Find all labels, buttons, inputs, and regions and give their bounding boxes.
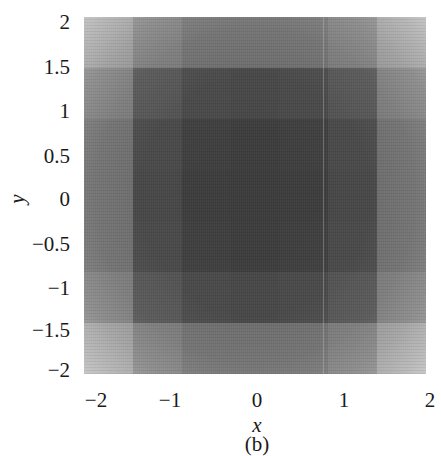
x-tick-label: 2 — [425, 390, 436, 411]
x-tick-label: 1 — [339, 390, 350, 411]
y-tick-label: 2 — [60, 12, 71, 33]
y-tick-label: −1.5 — [32, 320, 70, 341]
x-tick-label: −1 — [159, 390, 181, 411]
x-tick-label: −2 — [85, 390, 107, 411]
y-tick-label: −1 — [48, 278, 70, 299]
annotation-vertical-line — [323, 17, 324, 374]
y-tick-label: −0.5 — [32, 234, 70, 255]
y-tick-label: 1.5 — [44, 57, 70, 78]
y-tick-label: −2 — [48, 360, 70, 381]
y-tick-label: 0.5 — [44, 146, 70, 167]
y-tick-label: 1 — [60, 101, 71, 122]
x-tick-label: 0 — [252, 390, 263, 411]
y-tick-label: 0 — [60, 189, 71, 210]
heatmap-figure: 2 1.5 1 0.5 0 −0.5 −1 −1.5 −2 −2 −1 0 1 … — [0, 0, 441, 456]
figure-caption: (b) — [245, 432, 270, 456]
y-axis-label: y — [5, 194, 30, 203]
heatmap-plot-area — [84, 17, 426, 374]
noise-texture — [84, 17, 426, 374]
